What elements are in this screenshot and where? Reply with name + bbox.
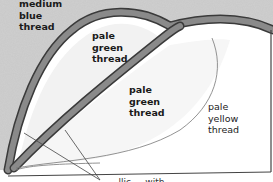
diagram-caption: ...llic ... with ... ... ... [110,176,199,182]
label-pale-green-thread-upper: pale green thread [92,30,128,65]
label-pale-green-thread-lower: pale green thread [129,84,165,119]
label-pale-yellow-thread: pale yellow thread [208,101,239,136]
label-medium-blue-thread: medium blue thread [19,0,62,33]
stitch-diagram: medium blue thread pale green thread pal… [0,0,273,182]
